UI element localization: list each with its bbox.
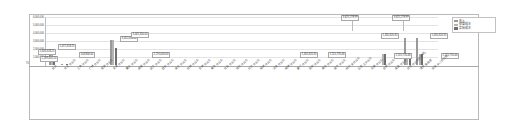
legend-label: 实际成本 <box>459 27 471 30</box>
legend-swatch-icon <box>454 27 458 30</box>
y-tick: 4,000,000 <box>33 32 44 35</box>
data-label-total-revenue: 1,626,318.25 <box>38 49 56 55</box>
bar-group <box>279 17 291 65</box>
bar-group <box>181 17 193 65</box>
bar-group <box>426 17 438 65</box>
data-label-rnd-revenue: 3,625,278.99 <box>392 15 410 21</box>
y-tick: 6,000,000 <box>33 16 44 19</box>
legend-swatch-icon <box>454 24 458 27</box>
leader-line <box>352 21 353 31</box>
bar-group <box>58 17 70 65</box>
bar-rev <box>61 64 63 65</box>
data-label-total-budget: 1,472,318.25 <box>58 44 76 50</box>
leader-line <box>403 21 404 31</box>
y-axis-zero-label: ¥0 <box>26 62 29 65</box>
legend-swatch-icon <box>454 20 458 23</box>
y-tick: 5,000,000 <box>33 24 44 27</box>
legend-actual-cost[interactable]: 实际成本 <box>454 27 494 30</box>
data-label-overseas-revenue: 3,625,278.99 <box>341 15 359 21</box>
bar-group <box>377 17 389 65</box>
data-label-total-actual: 1,269,405.50 <box>40 56 58 62</box>
data-label-overseas-budget: 1,450,320.35 <box>381 33 399 39</box>
bar-group <box>230 17 242 65</box>
chart-screenshot: 6,000,000 5,000,000 4,000,000 3,000,000 … <box>0 0 507 135</box>
y-tick: 3,000,000 <box>33 40 44 43</box>
chart-legend: 收入 预算成本 实际成本 <box>452 17 496 33</box>
data-label-rnd-budget: 1,450,320.35 <box>430 33 448 39</box>
data-label-tianjin-actual: 2,270,000.00 <box>152 52 170 58</box>
data-label-tianjin-budget: 3,445,300.00 <box>131 32 149 38</box>
y-axis-ticks: 6,000,000 5,000,000 4,000,000 3,000,000 … <box>0 17 44 66</box>
data-label-other-budget: 1,450,320.35 <box>300 52 318 58</box>
